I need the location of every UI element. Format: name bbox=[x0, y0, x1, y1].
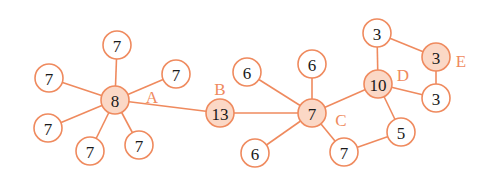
node-label-D: D bbox=[397, 66, 409, 85]
node-value: 7 bbox=[45, 70, 54, 89]
node-value: 7 bbox=[44, 120, 53, 139]
node-D: 10 bbox=[364, 70, 392, 98]
network-graph: 77787771366767103335 ABCDE bbox=[0, 0, 495, 191]
node-a_br: 7 bbox=[125, 131, 153, 159]
node-value: 3 bbox=[432, 90, 441, 109]
node-a_ll: 7 bbox=[34, 114, 62, 142]
node-a_ul: 7 bbox=[35, 64, 63, 92]
node-value: 8 bbox=[111, 92, 120, 111]
node-label-A: A bbox=[146, 88, 159, 107]
node-value: 6 bbox=[251, 145, 260, 164]
node-value: 3 bbox=[373, 25, 382, 44]
edge-A-B bbox=[115, 100, 220, 113]
node-value: 7 bbox=[340, 144, 349, 163]
node-c_t: 6 bbox=[298, 50, 326, 78]
node-a_top: 7 bbox=[103, 31, 131, 59]
node-c_br: 7 bbox=[330, 138, 358, 166]
node-label-C: C bbox=[335, 111, 346, 130]
node-value: 6 bbox=[308, 56, 317, 75]
node-label-E: E bbox=[456, 52, 466, 71]
node-c_bl: 6 bbox=[241, 139, 269, 167]
node-B: 13 bbox=[206, 99, 234, 127]
node-d_t: 3 bbox=[363, 19, 391, 47]
node-value: 7 bbox=[113, 37, 122, 56]
node-label-B: B bbox=[214, 80, 225, 99]
node-d_b: 5 bbox=[387, 118, 415, 146]
node-C: 7 bbox=[298, 99, 326, 127]
node-value: 6 bbox=[243, 64, 252, 83]
node-d_r: 3 bbox=[422, 84, 450, 112]
node-value: 10 bbox=[370, 76, 387, 95]
node-value: 3 bbox=[432, 49, 441, 68]
node-value: 7 bbox=[308, 105, 317, 124]
node-c_tl: 6 bbox=[233, 58, 261, 86]
node-a_bl: 7 bbox=[76, 137, 104, 165]
node-value: 7 bbox=[86, 143, 95, 162]
node-value: 5 bbox=[397, 124, 406, 143]
node-a_ur: 7 bbox=[162, 60, 190, 88]
node-value: 13 bbox=[212, 105, 229, 124]
node-A: 8 bbox=[101, 86, 129, 114]
node-value: 7 bbox=[172, 66, 181, 85]
node-E: 3 bbox=[422, 43, 450, 71]
node-value: 7 bbox=[135, 137, 144, 156]
